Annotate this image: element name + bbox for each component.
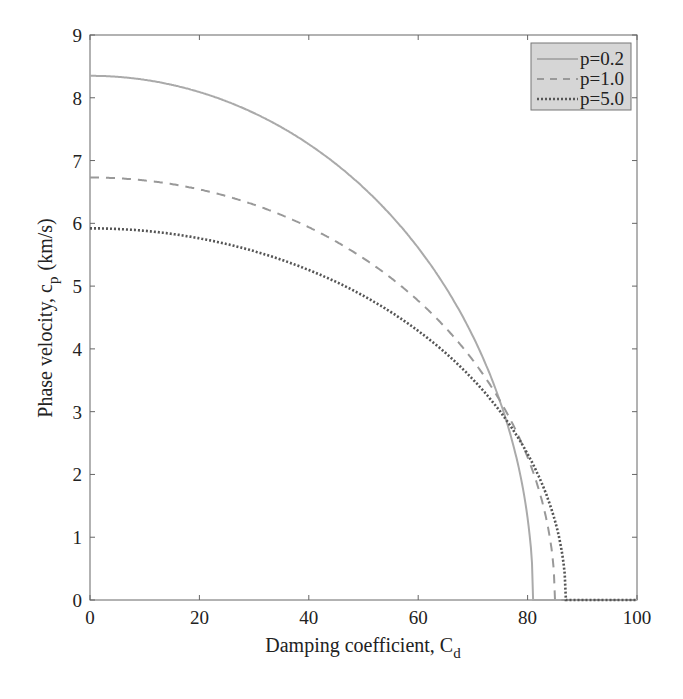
x-tick-label: 0: [85, 607, 95, 628]
x-tick-label: 80: [518, 607, 537, 628]
legend-label-1: p=1.0: [580, 68, 624, 89]
x-tick-label: 40: [299, 607, 318, 628]
x-tick-label: 60: [409, 607, 428, 628]
x-tick-label: 100: [623, 607, 652, 628]
y-tick-label: 4: [73, 339, 83, 360]
y-tick-label: 6: [73, 213, 83, 234]
legend-label-0: p=0.2: [580, 48, 624, 69]
y-tick-label: 2: [73, 464, 83, 485]
y-tick-label: 0: [73, 590, 83, 611]
y-tick-label: 8: [73, 88, 83, 109]
y-tick-label: 9: [73, 25, 83, 46]
y-axis-label: Phase velocity, cp(km/s): [34, 218, 61, 417]
phase-velocity-chart: 0204060801000123456789 Damping coefficie…: [0, 0, 683, 699]
x-tick-label: 20: [190, 607, 209, 628]
plot-area: [90, 35, 637, 600]
y-tick-label: 7: [73, 151, 83, 172]
legend: p=0.2 p=1.0 p=5.0: [531, 43, 631, 110]
x-axis-label: Damping coefficient, Cd: [265, 634, 461, 661]
legend-label-2: p=5.0: [580, 88, 624, 109]
y-tick-label: 5: [73, 276, 83, 297]
y-tick-label: 3: [73, 402, 83, 423]
y-tick-label: 1: [73, 527, 83, 548]
